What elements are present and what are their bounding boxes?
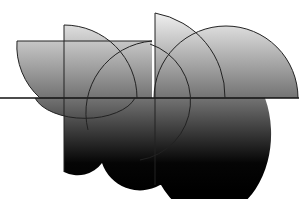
abstract-artwork — [0, 0, 299, 199]
lower-right-semicircle-shape — [154, 98, 271, 199]
quarter-circle-shape-left — [64, 25, 137, 98]
